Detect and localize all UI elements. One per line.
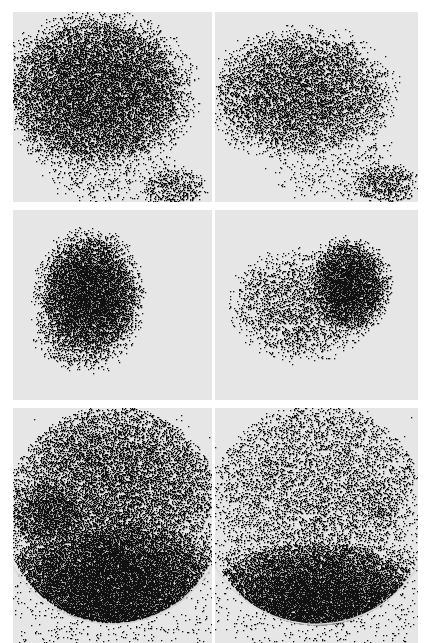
scan-image — [13, 408, 212, 643]
scan-image — [215, 408, 418, 643]
scan-image — [13, 12, 212, 202]
scan-panel-r1c1 — [13, 12, 212, 202]
scan-panel-r1c2 — [215, 12, 418, 202]
scan-panel-r3c2 — [215, 408, 418, 643]
scan-panel-r2c1 — [13, 210, 212, 400]
scan-image — [215, 210, 418, 400]
scan-image — [13, 210, 212, 400]
scan-image — [215, 12, 418, 202]
scan-panel-r2c2 — [215, 210, 418, 400]
scan-panel-r3c1 — [13, 408, 212, 643]
